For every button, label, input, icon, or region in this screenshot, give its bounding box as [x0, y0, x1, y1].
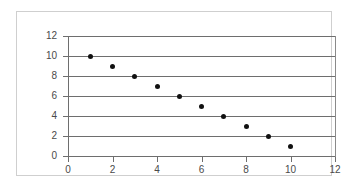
x-axis-tick: [68, 157, 69, 162]
x-axis-tick: [202, 157, 203, 162]
y-axis-tick-label: 4: [51, 111, 57, 121]
y-axis-tick-label: 0: [51, 151, 57, 161]
x-axis-tick: [335, 157, 336, 162]
x-axis-tick-label: 4: [154, 165, 160, 175]
x-axis-tick-label: 2: [110, 165, 116, 175]
y-axis-tick-label: 6: [51, 91, 57, 101]
figure-frame: 024681012 024681012: [16, 11, 332, 176]
plot-right-border: [335, 36, 336, 157]
y-axis-tick-label: 8: [51, 71, 57, 81]
plot-area: 024681012: [68, 36, 335, 156]
x-axis-tick-label: 6: [199, 165, 205, 175]
x-axis-tick: [113, 157, 114, 162]
x-axis-tick-label: 8: [243, 165, 249, 175]
x-axis-tick-labels: 024681012: [68, 36, 335, 156]
x-axis-tick: [291, 157, 292, 162]
x-axis-tick-label: 0: [65, 165, 71, 175]
x-axis-tick: [246, 157, 247, 162]
y-axis-tick-label: 12: [46, 31, 57, 41]
y-axis-tick-label: 2: [51, 131, 57, 141]
y-axis-tick-label: 10: [46, 51, 57, 61]
x-axis-tick-label: 12: [329, 165, 340, 175]
x-axis-tick-label: 10: [285, 165, 296, 175]
x-axis-tick: [157, 157, 158, 162]
